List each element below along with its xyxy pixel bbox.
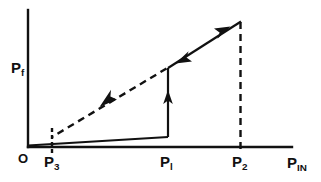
tick-label-p3-subscript: 3	[54, 161, 60, 172]
lower-branch-line	[28, 137, 168, 146]
tick-label-p3: P3	[44, 154, 60, 172]
y-axis-label-base: P	[11, 59, 21, 76]
tick-label-p3-base: P	[44, 153, 54, 170]
tick-label-p2-subscript: 2	[242, 161, 248, 172]
tick-label-p2: P2	[232, 154, 248, 172]
x-axis-label-base: P	[287, 154, 297, 171]
origin-label: O	[18, 152, 28, 165]
x-axis-label-subscript: IN	[297, 162, 307, 173]
x-axis-label: PIN	[287, 155, 307, 173]
y-axis-label: Pf	[11, 60, 24, 78]
tick-label-p2-base: P	[232, 153, 242, 170]
tick-label-p1-base: P	[160, 153, 170, 170]
tick-label-p1-subscript: l	[170, 161, 173, 172]
tick-label-p1: Pl	[160, 154, 173, 172]
y-axis-label-subscript: f	[21, 67, 24, 78]
arrow-down-left-dashed-icon	[100, 90, 118, 107]
bistability-figure: Pf O P3 Pl P2 PIN	[0, 0, 321, 182]
